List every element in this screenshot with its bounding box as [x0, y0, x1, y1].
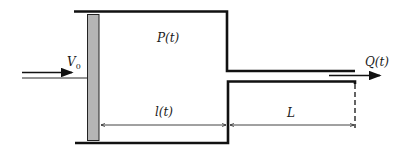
cylinder-bottom-wall [75, 82, 355, 144]
label-v0: V0 [67, 55, 81, 71]
piston [88, 15, 100, 141]
cylinder-top-wall [74, 12, 355, 72]
piston-diagram: V0 P(t) l(t) L Q(t) [0, 0, 402, 154]
label-pressure: P(t) [156, 31, 180, 45]
label-outflow: Q(t) [365, 55, 389, 69]
label-pipe-length: L [286, 106, 295, 120]
label-chamber-length: l(t) [155, 105, 173, 119]
